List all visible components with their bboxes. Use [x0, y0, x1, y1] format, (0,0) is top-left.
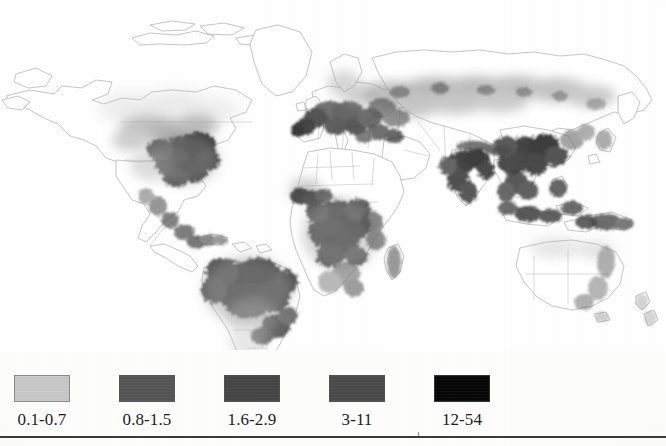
page-bottom-rule-tick — [418, 432, 419, 436]
legend-swatch-class-1 — [14, 375, 70, 402]
legend-entry-3: 1.6-2.9 — [204, 350, 300, 430]
legend-swatch-class-3 — [224, 375, 280, 402]
legend-entry-5: 12-54 — [414, 350, 510, 430]
legend-label-class-2: 0.8-1.5 — [99, 410, 195, 430]
legend-label-class-1: 0.1-0.7 — [0, 410, 90, 430]
world-map-panel — [0, 0, 666, 350]
legend-entry-4: 3-11 — [309, 350, 405, 430]
legend-swatch-class-5 — [434, 375, 490, 402]
density-madagascar — [387, 246, 401, 278]
legend-label-class-4: 3-11 — [309, 410, 405, 430]
figure-container: 0.1-0.7 0.8-1.5 1.6-2.9 3-11 12-54 — [0, 0, 666, 446]
legend-label-class-3: 1.6-2.9 — [204, 410, 300, 430]
legend: 0.1-0.7 0.8-1.5 1.6-2.9 3-11 12-54 — [0, 350, 666, 446]
legend-entry-1: 0.1-0.7 — [0, 350, 90, 430]
world-map-svg — [0, 0, 666, 350]
legend-label-class-5: 12-54 — [414, 410, 510, 430]
legend-entry-2: 0.8-1.5 — [99, 350, 195, 430]
density-africa-halo — [302, 198, 378, 270]
legend-swatch-class-4 — [329, 375, 385, 402]
page-bottom-rule — [0, 436, 666, 438]
legend-swatch-class-2 — [119, 375, 175, 402]
